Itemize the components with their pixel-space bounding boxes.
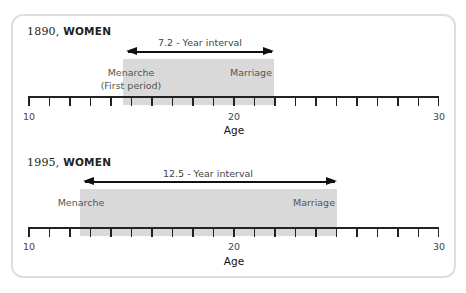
axis-tick xyxy=(110,227,112,237)
first-period-text: (First period) xyxy=(96,79,166,92)
menarche-text: Menarche xyxy=(96,66,166,79)
axis-tick xyxy=(172,96,174,106)
chart-card xyxy=(11,14,456,278)
axis-tick xyxy=(274,227,276,237)
axis-tick xyxy=(131,96,133,106)
axis-tick xyxy=(438,96,440,106)
axis-tick xyxy=(69,96,71,106)
axis-tick xyxy=(49,96,51,106)
axis-tick xyxy=(438,227,440,237)
axis-tick xyxy=(336,96,338,106)
axis-tick xyxy=(233,227,235,237)
menarche-label: Menarche xyxy=(55,196,107,209)
axis-tick xyxy=(356,96,358,106)
axis-tick xyxy=(213,96,215,106)
age-axis xyxy=(28,227,439,229)
axis-tick xyxy=(254,227,256,237)
axis-tick xyxy=(418,96,420,106)
axis-tick xyxy=(151,96,153,106)
axis-tick xyxy=(336,227,338,237)
axis-tick xyxy=(295,96,297,106)
axis-tick xyxy=(90,227,92,237)
axis-tick xyxy=(110,96,112,106)
axis-tick xyxy=(213,227,215,237)
axis-tick xyxy=(377,227,379,237)
axis-tick xyxy=(192,96,194,106)
axis-tick xyxy=(397,96,399,106)
axis-tick xyxy=(151,227,153,237)
axis-tick xyxy=(315,96,317,106)
double-arrow-icon xyxy=(85,181,335,183)
title-group: WOMEN xyxy=(63,156,111,168)
axis-tick xyxy=(254,96,256,106)
panel-title: 1995, WOMEN xyxy=(27,156,111,169)
double-arrow-icon xyxy=(128,51,272,53)
interval-label: 12.5 - Year interval xyxy=(108,168,308,179)
marriage-label: Marriage xyxy=(292,196,336,209)
marriage-label: Marriage xyxy=(229,66,273,79)
axis-tick xyxy=(28,96,30,106)
axis-tick xyxy=(28,227,30,237)
axis-tick xyxy=(397,227,399,237)
axis-tick xyxy=(315,227,317,237)
axis-tick xyxy=(90,96,92,106)
axis-tick xyxy=(233,96,235,106)
axis-tick xyxy=(295,227,297,237)
axis-tick xyxy=(356,227,358,237)
age-axis xyxy=(28,96,439,98)
axis-tick xyxy=(377,96,379,106)
axis-label-age: Age xyxy=(214,124,254,136)
title-year: 1995, xyxy=(27,156,60,169)
axis-tick xyxy=(49,227,51,237)
tick-label-30: 30 xyxy=(424,111,454,122)
axis-tick xyxy=(131,227,133,237)
axis-tick xyxy=(69,227,71,237)
axis-tick xyxy=(418,227,420,237)
axis-tick xyxy=(192,227,194,237)
tick-label-10: 10 xyxy=(14,111,44,122)
tick-label-20: 20 xyxy=(219,241,249,252)
title-group: WOMEN xyxy=(63,25,111,37)
title-year: 1890, xyxy=(27,25,60,38)
axis-tick xyxy=(274,96,276,106)
tick-label-10: 10 xyxy=(14,241,44,252)
tick-label-30: 30 xyxy=(424,241,454,252)
axis-label-age: Age xyxy=(214,255,254,267)
panel-title: 1890, WOMEN xyxy=(27,25,111,38)
menarche-label: Menarche (First period) xyxy=(96,66,166,92)
tick-label-20: 20 xyxy=(219,111,249,122)
axis-tick xyxy=(172,227,174,237)
